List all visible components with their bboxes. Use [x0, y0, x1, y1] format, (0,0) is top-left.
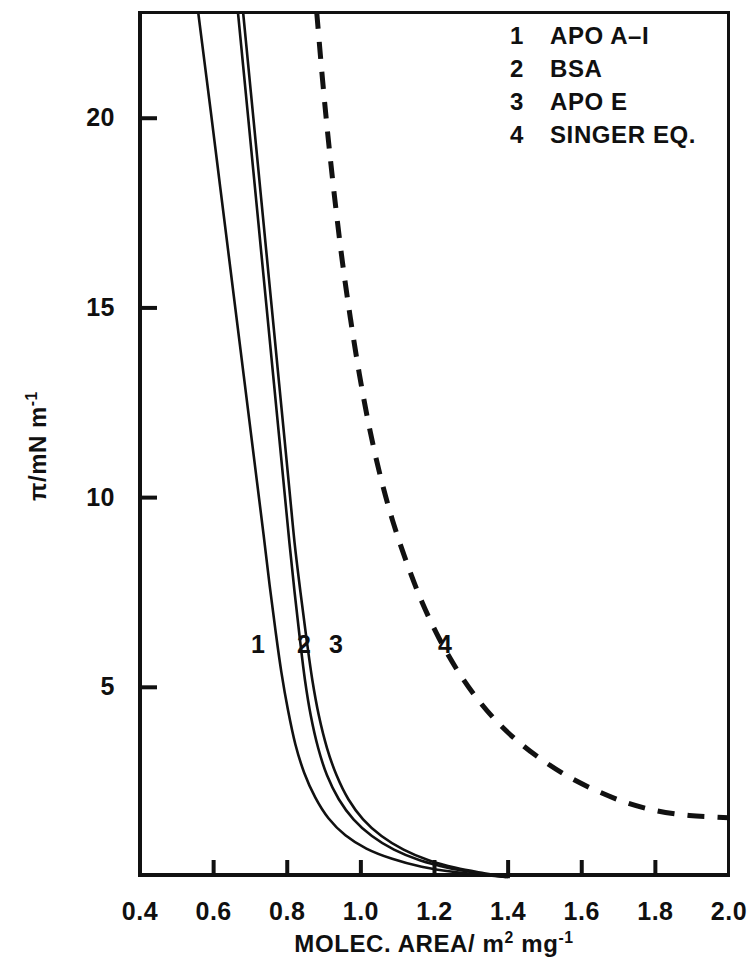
- x-tick-label: 1.2: [395, 899, 475, 924]
- y-axis-title-text: π/mN m: [24, 406, 51, 501]
- y-axis-title-exponent: -1: [23, 391, 40, 406]
- figure-container: 2015105 0.40.60.81.01.21.41.61.82.0 1234…: [0, 0, 749, 976]
- y-tick-label: 10: [45, 485, 115, 510]
- x-tick-label: 1.8: [615, 899, 695, 924]
- x-axis-title: MOLEC. AREA/ m2 mg-1: [138, 930, 730, 958]
- legend-key: 1: [510, 22, 550, 50]
- x-tick-label: 1.6: [542, 899, 622, 924]
- y-tick-label: 15: [45, 295, 115, 320]
- y-tick-label: 20: [45, 105, 115, 130]
- x-tick-label: 2.0: [689, 899, 749, 924]
- x-tick-label: 1.4: [468, 899, 548, 924]
- legend-label: APO E: [550, 88, 628, 116]
- y-tick-label: 5: [45, 674, 115, 699]
- curve-label-3: 3: [324, 632, 348, 657]
- legend-label: APO A–I: [550, 22, 649, 50]
- legend-entry-1: 1APO A–I: [510, 22, 740, 55]
- x-tick-label: 0.8: [247, 899, 327, 924]
- curve-label-1: 1: [246, 632, 270, 657]
- x-axis-title-exponent-2: -1: [558, 929, 573, 946]
- x-tick-label: 1.0: [321, 899, 401, 924]
- curve-label-4: 4: [433, 632, 457, 657]
- x-tick-label: 0.6: [174, 899, 254, 924]
- x-axis-title-exponent-1: 2: [505, 929, 514, 946]
- legend: 1APO A–I2BSA3APO E4SINGER EQ.: [510, 22, 740, 154]
- legend-entry-4: 4SINGER EQ.: [510, 121, 740, 154]
- x-axis-title-text-mid: mg: [514, 930, 558, 957]
- x-tick-label: 0.4: [100, 899, 180, 924]
- legend-entry-2: 2BSA: [510, 55, 740, 88]
- y-axis-title: π/mN m-1: [24, 356, 52, 536]
- legend-key: 4: [510, 121, 550, 149]
- x-axis-title-text: MOLEC. AREA/ m: [294, 930, 504, 957]
- legend-label: SINGER EQ.: [550, 121, 696, 149]
- legend-label: BSA: [550, 55, 602, 83]
- legend-key: 2: [510, 55, 550, 83]
- legend-entry-3: 3APO E: [510, 88, 740, 121]
- legend-key: 3: [510, 88, 550, 116]
- curve-label-2: 2: [292, 632, 316, 657]
